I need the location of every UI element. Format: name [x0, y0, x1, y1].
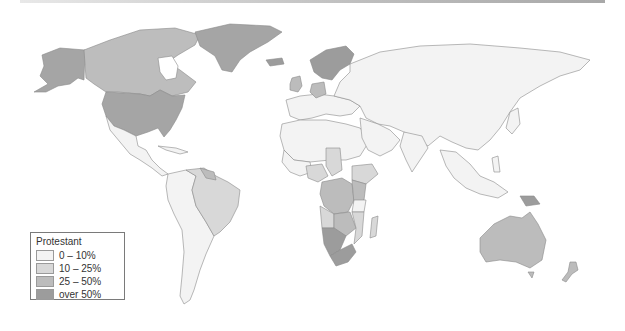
legend-item: 0 – 10%	[36, 249, 119, 262]
region-caribbean	[158, 146, 188, 154]
region-tanzania	[352, 200, 366, 212]
legend-swatch	[36, 263, 54, 274]
region-new-zealand	[562, 262, 578, 282]
legend-label: 25 – 50%	[59, 276, 101, 287]
legend-swatch	[36, 250, 54, 261]
region-madagascar	[370, 216, 378, 238]
legend-item: 10 – 25%	[36, 262, 119, 275]
region-philippines	[492, 156, 500, 172]
region-north-africa	[280, 120, 370, 162]
legend-label: over 50%	[59, 289, 101, 300]
region-australia	[480, 212, 546, 268]
legend-swatch	[36, 276, 54, 287]
region-alaska	[34, 48, 85, 92]
legend-label: 0 – 10%	[59, 250, 96, 261]
region-chad	[326, 148, 342, 176]
legend-title: Protestant	[36, 236, 119, 247]
region-canada	[84, 28, 200, 96]
legend-label: 10 – 25%	[59, 263, 101, 274]
region-papua-new-guinea	[520, 196, 540, 206]
map-legend: Protestant 0 – 10% 10 – 25% 25 – 50% ove…	[30, 232, 125, 300]
legend-item: over 50%	[36, 288, 119, 301]
legend-item: 25 – 50%	[36, 275, 119, 288]
region-iceland	[266, 58, 284, 66]
region-nigeria-area	[306, 164, 328, 182]
region-uk	[290, 76, 302, 92]
legend-swatch	[36, 289, 54, 300]
region-tasmania	[528, 272, 534, 278]
